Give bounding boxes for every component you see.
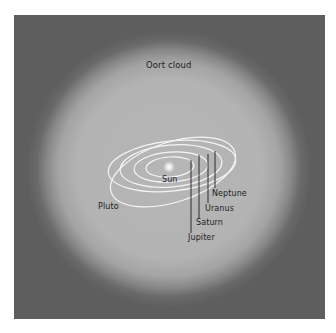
uranus-label: Uranus (205, 204, 234, 214)
sun-label: Sun (162, 175, 178, 185)
solar-system-diagram: Oort cloud Sun Neptune Uranus Saturn Jup… (14, 15, 325, 319)
jupiter-label: Jupiter (188, 233, 215, 243)
neptune-label: Neptune (212, 189, 247, 199)
pluto-label: Pluto (98, 202, 119, 212)
sun-icon (163, 161, 175, 173)
saturn-label: Saturn (196, 218, 223, 228)
oort-cloud-label: Oort cloud (146, 60, 191, 70)
